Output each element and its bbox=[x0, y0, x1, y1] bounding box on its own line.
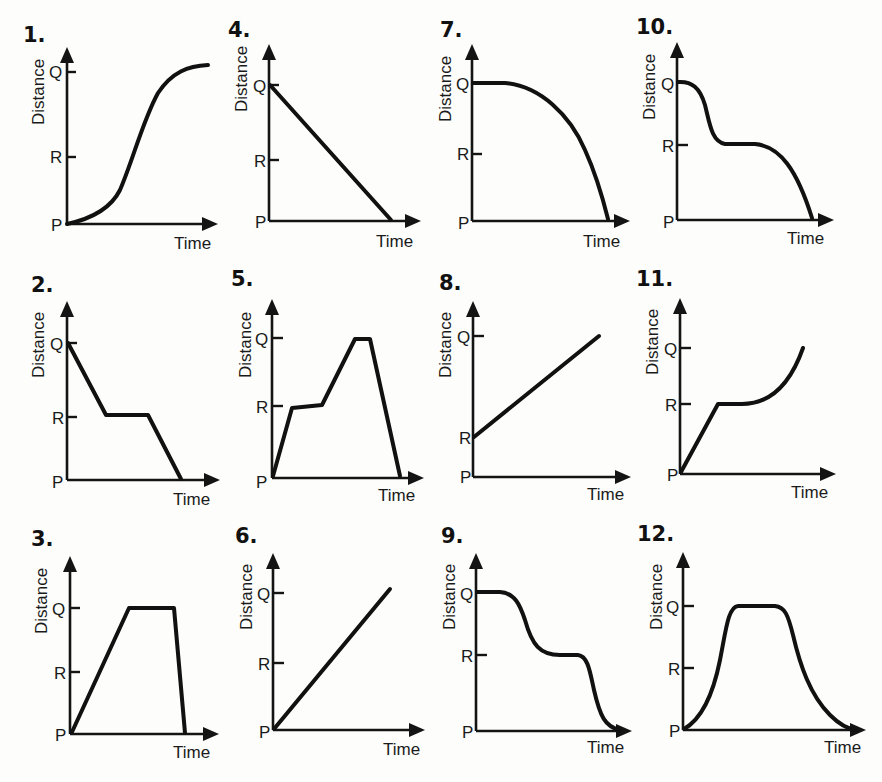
panel-4: 4. Q R P Time Distance bbox=[228, 18, 421, 251]
curve bbox=[477, 592, 620, 730]
x-axis-label: Time bbox=[383, 740, 420, 759]
q-label: Q bbox=[50, 335, 63, 354]
y-axis-arrow-icon bbox=[60, 301, 74, 317]
y-axis-label: Distance bbox=[436, 312, 455, 378]
x-axis-label: Time bbox=[173, 743, 210, 762]
q-label: Q bbox=[460, 585, 473, 604]
q-label: Q bbox=[255, 330, 268, 349]
x-axis-arrow-icon bbox=[409, 723, 425, 737]
y-axis-label: Distance bbox=[236, 312, 255, 378]
p-label: P bbox=[256, 473, 267, 492]
y-axis-label: Distance bbox=[640, 54, 659, 120]
panel-number: 1. bbox=[23, 23, 46, 47]
y-axis-label: Distance bbox=[237, 564, 256, 630]
y-axis-arrow-icon bbox=[63, 556, 77, 572]
panel-number: 4. bbox=[228, 18, 251, 42]
p-label: P bbox=[259, 723, 270, 742]
p-label: P bbox=[663, 213, 674, 232]
r-label: R bbox=[52, 409, 64, 428]
panel-number: 9. bbox=[441, 524, 464, 548]
p-label: P bbox=[462, 723, 473, 742]
x-axis-label: Time bbox=[173, 490, 210, 509]
x-axis-arrow-icon bbox=[405, 214, 421, 228]
r-label: R bbox=[665, 396, 677, 415]
x-axis-arrow-icon bbox=[614, 214, 630, 228]
y-axis-label: Distance bbox=[436, 56, 455, 122]
y-axis-arrow-icon bbox=[676, 552, 690, 568]
curve bbox=[474, 336, 599, 437]
panel-6: 6. Q R P Time Distance bbox=[235, 524, 425, 759]
x-axis-label: Time bbox=[587, 485, 624, 504]
q-label: Q bbox=[661, 75, 674, 94]
y-axis-arrow-icon bbox=[469, 553, 483, 569]
y-axis-arrow-icon bbox=[266, 553, 280, 569]
r-label: R bbox=[668, 660, 680, 679]
q-label: Q bbox=[49, 63, 62, 82]
p-label: P bbox=[667, 466, 678, 485]
y-axis-label: Distance bbox=[29, 312, 48, 378]
curve bbox=[270, 85, 391, 220]
panel-1: 1. Q R P Time Distance bbox=[23, 23, 218, 253]
panel-number: 11. bbox=[636, 267, 673, 291]
panel-number: 6. bbox=[235, 524, 258, 548]
x-axis-arrow-icon bbox=[408, 471, 424, 485]
curve bbox=[274, 589, 390, 729]
y-axis-arrow-icon bbox=[265, 299, 279, 315]
panel-8: 8. Q R P Time Distance bbox=[436, 271, 631, 504]
curve bbox=[72, 608, 185, 733]
x-axis-label: Time bbox=[378, 486, 415, 505]
r-label: R bbox=[54, 664, 66, 683]
p-label: P bbox=[458, 214, 469, 233]
r-label: R bbox=[254, 152, 266, 171]
q-label: Q bbox=[457, 328, 470, 347]
distance-time-graphs-sheet: 1. Q R P Time Distance 4. Q R P Time Dis… bbox=[0, 0, 882, 782]
r-label: R bbox=[50, 148, 62, 167]
y-axis-arrow-icon bbox=[673, 298, 687, 314]
r-label: R bbox=[459, 429, 471, 448]
q-label: Q bbox=[52, 600, 65, 619]
panel-12: 12. Q R P Time Distance bbox=[637, 522, 866, 757]
q-label: Q bbox=[257, 585, 270, 604]
p-label: P bbox=[669, 722, 680, 741]
panel-9: 9. Q R P Time Distance bbox=[440, 524, 632, 757]
p-label: P bbox=[255, 213, 266, 232]
q-label: Q bbox=[666, 598, 679, 617]
r-label: R bbox=[461, 647, 473, 666]
x-axis-arrow-icon bbox=[202, 217, 218, 231]
curve bbox=[67, 65, 208, 224]
curve bbox=[681, 348, 803, 472]
x-axis-label: Time bbox=[376, 232, 413, 251]
q-label: Q bbox=[253, 77, 266, 96]
p-label: P bbox=[52, 473, 63, 492]
x-axis-arrow-icon bbox=[204, 473, 220, 487]
p-label: P bbox=[55, 726, 66, 745]
x-axis-arrow-icon bbox=[818, 213, 834, 227]
panel-number: 3. bbox=[31, 527, 54, 551]
panel-number: 5. bbox=[231, 267, 254, 291]
q-label: Q bbox=[456, 75, 469, 94]
p-label: P bbox=[51, 216, 62, 235]
panel-11: 11. Q R P Time Distance bbox=[636, 267, 836, 502]
r-label: R bbox=[457, 145, 469, 164]
x-axis-arrow-icon bbox=[615, 470, 631, 484]
y-axis-label: Distance bbox=[647, 564, 666, 630]
y-axis-arrow-icon bbox=[60, 47, 74, 63]
curve bbox=[473, 83, 608, 219]
r-label: R bbox=[258, 655, 270, 674]
x-axis-label: Time bbox=[583, 232, 620, 251]
x-axis-label: Time bbox=[791, 483, 828, 502]
x-axis-label: Time bbox=[787, 229, 824, 248]
y-axis-arrow-icon bbox=[465, 44, 479, 60]
y-axis-label: Distance bbox=[232, 46, 251, 112]
panel-number: 10. bbox=[636, 15, 673, 39]
r-label: R bbox=[256, 398, 268, 417]
y-axis-arrow-icon bbox=[262, 44, 276, 60]
y-axis-label: Distance bbox=[643, 309, 662, 375]
p-label: P bbox=[460, 468, 471, 487]
curve bbox=[273, 339, 400, 476]
panel-number: 8. bbox=[439, 271, 462, 295]
y-axis-label: Distance bbox=[32, 568, 51, 634]
panel-7: 7. Q R P Time Distance bbox=[436, 18, 630, 251]
x-axis-arrow-icon bbox=[203, 727, 219, 741]
x-axis-arrow-icon bbox=[820, 467, 836, 481]
